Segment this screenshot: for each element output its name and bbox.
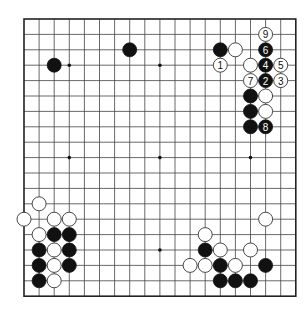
stone-black [47, 228, 61, 242]
go-board-canvas[interactable]: 123456789 [0, 0, 307, 320]
stone-black [62, 228, 76, 242]
stone-white [47, 258, 61, 272]
numbered-stone-black-2: 2 [259, 74, 273, 88]
white-stone-icon [47, 258, 61, 272]
black-stone-icon [32, 243, 46, 257]
black-stone-icon [213, 258, 227, 272]
stone-black [244, 274, 258, 288]
stone-white [47, 274, 61, 288]
black-stone-icon [259, 258, 273, 272]
white-stone-icon [228, 258, 242, 272]
numbered-stone-white-9: 9 [259, 27, 273, 41]
move-number: 6 [263, 45, 269, 56]
stone-white [213, 243, 227, 257]
stone-white [32, 197, 46, 211]
stone-black [47, 58, 61, 72]
stone-black [213, 274, 227, 288]
stone-black [32, 243, 46, 257]
white-stone-icon [213, 243, 227, 257]
stone-white [183, 258, 197, 272]
stone-white [198, 228, 212, 242]
black-stone-icon [123, 43, 137, 57]
stone-white [259, 212, 273, 226]
white-stone-icon [198, 228, 212, 242]
go-board[interactable]: 123456789 [0, 0, 307, 320]
move-number: 4 [263, 60, 269, 71]
stone-black [213, 43, 227, 57]
move-number: 3 [278, 76, 284, 87]
white-stone-icon [183, 258, 197, 272]
stone-black [228, 274, 242, 288]
star-point [158, 156, 162, 160]
black-stone-icon [198, 243, 212, 257]
black-stone-icon [213, 43, 227, 57]
stone-white [17, 212, 31, 226]
star-point [249, 156, 253, 160]
stone-black [32, 274, 46, 288]
stone-black [244, 104, 258, 118]
black-stone-icon [213, 274, 227, 288]
stone-black [62, 258, 76, 272]
white-stone-icon [259, 89, 273, 103]
white-stone-icon [47, 274, 61, 288]
move-number: 1 [218, 60, 224, 71]
white-stone-icon [32, 228, 46, 242]
white-stone-icon [32, 197, 46, 211]
stone-black [198, 243, 212, 257]
black-stone-icon [32, 258, 46, 272]
stone-black [123, 43, 137, 57]
black-stone-icon [62, 228, 76, 242]
stone-white [198, 258, 212, 272]
star-point [68, 63, 72, 67]
stone-white [259, 89, 273, 103]
stone-white [244, 243, 258, 257]
white-stone-icon [198, 258, 212, 272]
move-number: 5 [278, 60, 284, 71]
stone-white [244, 58, 258, 72]
move-number: 9 [263, 29, 269, 40]
white-stone-icon [228, 43, 242, 57]
stone-white [47, 212, 61, 226]
numbered-stone-white-1: 1 [213, 58, 227, 72]
white-stone-icon [259, 104, 273, 118]
white-stone-icon [244, 58, 258, 72]
move-number: 2 [263, 76, 269, 87]
black-stone-icon [244, 89, 258, 103]
white-stone-icon [47, 212, 61, 226]
black-stone-icon [244, 274, 258, 288]
stone-white [47, 243, 61, 257]
stone-black [244, 120, 258, 134]
stone-white [228, 258, 242, 272]
stone-white [259, 104, 273, 118]
stone-black [213, 258, 227, 272]
white-stone-icon [17, 212, 31, 226]
stone-black [259, 258, 273, 272]
black-stone-icon [62, 258, 76, 272]
stone-white [62, 212, 76, 226]
move-number: 8 [263, 122, 269, 133]
white-stone-icon [244, 243, 258, 257]
black-stone-icon [47, 228, 61, 242]
stone-black [32, 258, 46, 272]
black-stone-icon [228, 274, 242, 288]
numbered-stone-white-3: 3 [274, 74, 288, 88]
black-stone-icon [244, 120, 258, 134]
black-stone-icon [244, 104, 258, 118]
numbered-stone-white-5: 5 [274, 58, 288, 72]
stone-black [244, 89, 258, 103]
white-stone-icon [47, 243, 61, 257]
star-point [158, 63, 162, 67]
white-stone-icon [62, 212, 76, 226]
star-point [158, 248, 162, 252]
move-number: 7 [248, 76, 254, 87]
numbered-stone-black-4: 4 [259, 58, 273, 72]
stone-black [62, 243, 76, 257]
black-stone-icon [32, 274, 46, 288]
numbered-stone-black-8: 8 [259, 120, 273, 134]
numbered-stone-black-6: 6 [259, 43, 273, 57]
white-stone-icon [259, 212, 273, 226]
black-stone-icon [62, 243, 76, 257]
black-stone-icon [47, 58, 61, 72]
stone-white [228, 43, 242, 57]
star-point [68, 156, 72, 160]
